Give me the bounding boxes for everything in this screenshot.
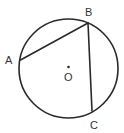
center-point-o (67, 66, 70, 69)
chord-bc (88, 23, 92, 111)
label-point-c: C (90, 119, 98, 131)
label-center-o: O (64, 71, 73, 83)
circle-diagram: A B C O (0, 0, 124, 133)
label-point-a: A (5, 54, 13, 66)
label-point-b: B (85, 6, 92, 18)
chord-ab (21, 23, 89, 60)
